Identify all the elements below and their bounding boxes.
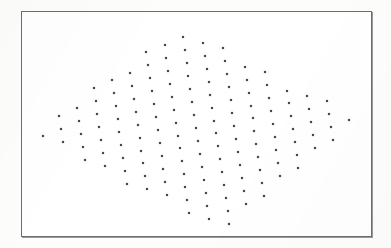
figure-root — [0, 0, 391, 248]
scatter-plot-canvas — [0, 0, 391, 248]
